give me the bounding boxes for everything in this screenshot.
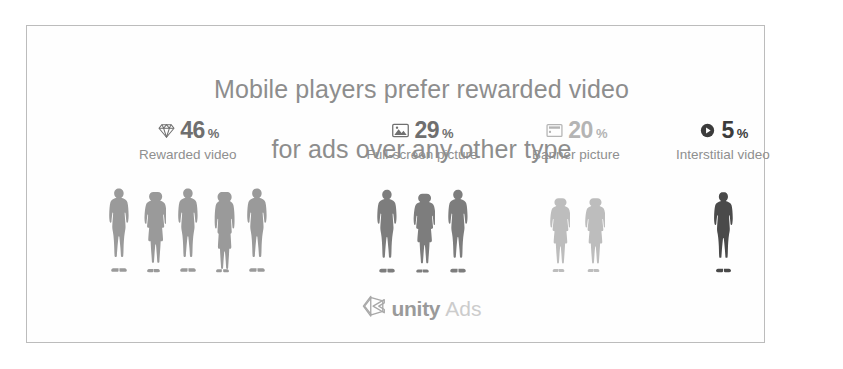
stat-headline: 20% xyxy=(532,118,620,142)
stat-value: 29 xyxy=(414,119,439,142)
stat-group-banner-picture: 20%Banner picture xyxy=(532,118,620,163)
stat-label: Interstitial video xyxy=(676,147,770,163)
play-circle-icon xyxy=(697,120,718,141)
picture-icon xyxy=(390,120,411,141)
stat-percent-sign: % xyxy=(737,127,749,142)
unity-cube-icon xyxy=(362,294,387,323)
stat-headline: 46% xyxy=(139,118,237,142)
person-silhouette xyxy=(445,188,471,274)
person-silhouette xyxy=(106,186,132,274)
stat-label: Banner picture xyxy=(532,147,620,163)
figure-group-2 xyxy=(374,188,471,274)
figure-group-1 xyxy=(106,186,270,274)
person-silhouette xyxy=(410,192,435,274)
unity-ads-logo: unity Ads xyxy=(0,294,843,323)
stats-row: 46%Rewarded video29%Full-screen picture2… xyxy=(60,118,783,170)
stat-headline: 29% xyxy=(367,118,478,142)
person-silhouette xyxy=(582,196,605,274)
person-silhouette xyxy=(210,190,235,274)
stat-percent-sign: % xyxy=(596,127,608,142)
figure-group-3 xyxy=(547,196,605,274)
logo-product-text: Ads xyxy=(445,298,481,319)
figures-row xyxy=(60,182,783,274)
person-silhouette xyxy=(547,196,570,274)
banner-icon xyxy=(544,120,565,141)
stat-group-interstitial-video: 5%Interstitial video xyxy=(676,118,770,163)
person-silhouette xyxy=(374,188,400,274)
stat-value: 46 xyxy=(180,119,205,142)
person-silhouette xyxy=(175,186,201,274)
stat-percent-sign: % xyxy=(442,127,454,142)
figure-group-4 xyxy=(711,190,736,274)
logo-brand-text: unity xyxy=(392,298,441,319)
stat-value: 5 xyxy=(721,119,733,142)
title-line-1: Mobile players prefer rewarded video xyxy=(214,75,629,103)
stat-label: Full-screen picture xyxy=(367,147,478,163)
stat-label: Rewarded video xyxy=(139,147,237,163)
infographic-canvas: Mobile players prefer rewarded video for… xyxy=(0,0,843,369)
person-silhouette xyxy=(711,190,736,274)
stat-percent-sign: % xyxy=(208,127,220,142)
person-silhouette xyxy=(244,186,270,274)
stat-group-rewarded-video: 46%Rewarded video xyxy=(139,118,237,163)
stat-headline: 5% xyxy=(676,118,770,142)
diamond-icon xyxy=(156,120,177,141)
person-silhouette xyxy=(141,190,166,274)
stat-group-full-screen-picture: 29%Full-screen picture xyxy=(367,118,478,163)
stat-value: 20 xyxy=(568,119,593,142)
